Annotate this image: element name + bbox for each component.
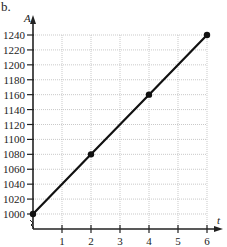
data-point bbox=[204, 32, 210, 38]
data-point bbox=[88, 151, 94, 157]
x-axis-arrow-icon bbox=[214, 226, 223, 232]
y-tick-label: 1020 bbox=[3, 193, 26, 205]
chart: 1000102010401060108011001120114011601180… bbox=[0, 0, 227, 247]
x-axis-label: t bbox=[217, 214, 221, 226]
x-tick-label: 3 bbox=[117, 235, 123, 247]
y-tick-label: 1240 bbox=[3, 29, 26, 41]
y-axis-label: A bbox=[23, 12, 31, 24]
y-tick-label: 1160 bbox=[3, 89, 25, 101]
y-tick-label: 1040 bbox=[3, 178, 26, 190]
grid bbox=[33, 35, 207, 229]
y-tick-label: 1100 bbox=[3, 133, 25, 145]
y-tick-label: 1180 bbox=[3, 74, 25, 86]
x-tick-label: 5 bbox=[175, 235, 181, 247]
data-point bbox=[30, 211, 36, 217]
x-tick-label: 4 bbox=[146, 235, 152, 247]
y-tick-label: 1200 bbox=[3, 59, 26, 71]
x-tick-label: 2 bbox=[88, 235, 94, 247]
x-tick-label: 6 bbox=[204, 235, 210, 247]
y-tick-label: 1140 bbox=[3, 104, 25, 116]
y-tick-label: 1120 bbox=[3, 119, 25, 131]
y-tick-label: 1000 bbox=[3, 208, 26, 220]
y-tick-label: 1080 bbox=[3, 148, 26, 160]
data-point bbox=[146, 91, 152, 97]
y-tick-label: 1220 bbox=[3, 44, 26, 56]
x-tick-label: 1 bbox=[59, 235, 65, 247]
y-tick-label: 1060 bbox=[3, 163, 26, 175]
y-axis-arrow-icon bbox=[30, 15, 36, 24]
